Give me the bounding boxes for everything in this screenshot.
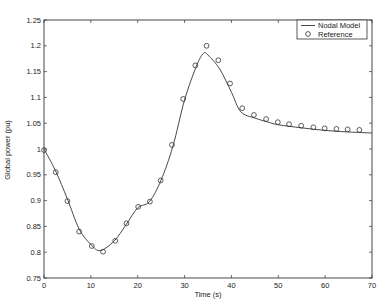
y-tick-label: 0.75: [26, 274, 41, 283]
x-tick-label: 0: [42, 281, 46, 290]
reference-marker: [228, 81, 233, 86]
x-tick-label: 10: [87, 281, 95, 290]
reference-marker: [240, 106, 245, 111]
x-tick-label: 20: [134, 281, 142, 290]
reference-marker: [334, 126, 339, 131]
x-tick-label: 60: [321, 281, 329, 290]
series-layer: [42, 43, 372, 254]
y-tick-label: 0.95: [26, 170, 41, 179]
y-tick-label: 1.1: [31, 93, 41, 102]
plot-area-border: [44, 20, 372, 278]
reference-marker: [345, 127, 350, 132]
reference-marker: [357, 128, 362, 133]
y-tick-label: 1: [37, 145, 41, 154]
reference-marker: [124, 221, 129, 226]
reference-marker: [275, 120, 280, 125]
y-tick-label: 1.15: [26, 67, 41, 76]
plot-frame: [44, 20, 372, 278]
y-tick-label: 1.05: [26, 119, 41, 128]
x-axis-ticks: 010203040506070: [42, 20, 376, 290]
line-chart: 010203040506070 0.750.80.850.90.9511.051…: [0, 0, 388, 308]
y-axis-ticks: 0.750.80.850.90.9511.051.11.151.21.25: [26, 16, 372, 283]
legend-label-reference: Reference: [318, 30, 353, 39]
x-tick-label: 40: [227, 281, 235, 290]
x-tick-label: 30: [180, 281, 188, 290]
y-tick-label: 1.25: [26, 16, 41, 25]
y-tick-label: 0.85: [26, 222, 41, 231]
legend: Nodal Model Reference: [297, 20, 367, 39]
reference-marker: [252, 113, 257, 118]
y-axis-label: Global power (pu): [3, 120, 12, 180]
y-tick-label: 0.9: [31, 196, 41, 205]
series-line-nodal-model: [44, 53, 372, 251]
x-tick-label: 70: [368, 281, 376, 290]
reference-marker: [216, 58, 221, 63]
reference-marker: [264, 117, 269, 122]
x-axis-label: Time (s): [194, 290, 222, 299]
reference-marker: [113, 238, 118, 243]
x-tick-label: 50: [274, 281, 282, 290]
y-tick-label: 1.2: [31, 41, 41, 50]
reference-marker: [204, 43, 209, 48]
y-tick-label: 0.8: [31, 248, 41, 257]
